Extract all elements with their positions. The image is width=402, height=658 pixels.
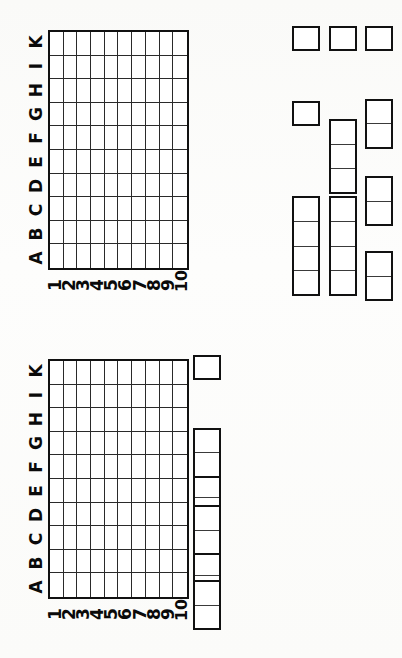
grid-cell[interactable] (146, 126, 160, 150)
grid-cell[interactable] (50, 408, 64, 432)
grid-cell[interactable] (146, 103, 160, 127)
grid-cell[interactable] (50, 56, 64, 80)
grid-cell[interactable] (146, 432, 160, 456)
grid-cell[interactable] (160, 526, 174, 550)
ship-segment[interactable] (294, 103, 318, 124)
grid-cell[interactable] (146, 197, 160, 221)
grid-cell[interactable] (105, 573, 119, 597)
grid-cell[interactable] (132, 408, 146, 432)
grid-cell[interactable] (173, 455, 187, 479)
grid-cell[interactable] (50, 174, 64, 198)
grid-cell[interactable] (64, 432, 78, 456)
grid-cell[interactable] (160, 455, 174, 479)
grid-cell[interactable] (173, 361, 187, 385)
grid-cell[interactable] (77, 244, 91, 268)
grid-cell[interactable] (146, 526, 160, 550)
grid-cell[interactable] (146, 385, 160, 409)
grid-cell[interactable] (105, 455, 119, 479)
battleship-board-top[interactable]: A B C D E F G H I K 1 2 3 4 5 6 7 8 9 10 (0, 0, 402, 329)
ship-token-len-1[interactable] (292, 101, 320, 126)
grid-cell[interactable] (105, 174, 119, 198)
grid-cell[interactable] (132, 103, 146, 127)
grid-cell[interactable] (160, 79, 174, 103)
grid-cell[interactable] (105, 221, 119, 245)
grid-cell[interactable] (64, 550, 78, 574)
grid-cell[interactable] (160, 150, 174, 174)
grid-cell[interactable] (77, 32, 91, 56)
ship-token-len-2[interactable] (365, 251, 393, 301)
grid-cell[interactable] (160, 385, 174, 409)
grid-cell[interactable] (173, 244, 187, 268)
grid-cell[interactable] (50, 103, 64, 127)
grid-cell[interactable] (173, 526, 187, 550)
grid-cell[interactable] (64, 174, 78, 198)
grid-cell[interactable] (105, 150, 119, 174)
grid-cell[interactable] (132, 479, 146, 503)
grid-cell[interactable] (91, 126, 105, 150)
grid-cell[interactable] (118, 385, 132, 409)
grid-cell[interactable] (173, 79, 187, 103)
grid-cell[interactable] (77, 150, 91, 174)
grid-cell[interactable] (105, 503, 119, 527)
ship-token-len-4[interactable] (329, 196, 357, 296)
ship-segment[interactable] (294, 28, 318, 49)
fleet-area-top[interactable] (192, 26, 400, 296)
grid-cell[interactable] (64, 455, 78, 479)
grid-cell[interactable] (173, 479, 187, 503)
ship-segment[interactable] (367, 253, 391, 277)
ship-segment[interactable] (294, 198, 318, 222)
grid-cell[interactable] (173, 174, 187, 198)
grid-cell[interactable] (160, 573, 174, 597)
ship-segment[interactable] (195, 453, 219, 476)
grid-cell[interactable] (50, 455, 64, 479)
grid-cell[interactable] (118, 455, 132, 479)
ship-segment[interactable] (195, 582, 219, 606)
grid-bottom[interactable] (48, 359, 189, 599)
grid-cell[interactable] (132, 126, 146, 150)
grid-cell[interactable] (77, 455, 91, 479)
grid-cell[interactable] (64, 79, 78, 103)
grid-cell[interactable] (118, 573, 132, 597)
grid-cell[interactable] (160, 174, 174, 198)
grid-cell[interactable] (118, 244, 132, 268)
ship-segment[interactable] (195, 606, 219, 629)
ship-segment[interactable] (331, 198, 355, 222)
grid-cell[interactable] (105, 244, 119, 268)
grid-cell[interactable] (91, 432, 105, 456)
grid-cell[interactable] (173, 32, 187, 56)
grid-cell[interactable] (160, 56, 174, 80)
ship-segment[interactable] (367, 101, 391, 125)
grid-cell[interactable] (77, 56, 91, 80)
grid-cell[interactable] (50, 361, 64, 385)
grid-cell[interactable] (173, 150, 187, 174)
grid-cell[interactable] (146, 79, 160, 103)
grid-cell[interactable] (50, 197, 64, 221)
grid-cell[interactable] (64, 503, 78, 527)
grid-cell[interactable] (160, 408, 174, 432)
grid-cell[interactable] (146, 503, 160, 527)
fleet-column-1[interactable] (291, 26, 325, 296)
grid-cell[interactable] (105, 550, 119, 574)
grid-cell[interactable] (118, 479, 132, 503)
grid-cell[interactable] (146, 32, 160, 56)
grid-cell[interactable] (91, 244, 105, 268)
ship-segment[interactable] (294, 222, 318, 246)
grid-cell[interactable] (64, 221, 78, 245)
grid-cell[interactable] (160, 197, 174, 221)
ship-token-len-1[interactable] (365, 26, 393, 51)
grid-cell[interactable] (77, 432, 91, 456)
grid-cell[interactable] (132, 526, 146, 550)
grid-cell[interactable] (173, 432, 187, 456)
grid-cell[interactable] (77, 361, 91, 385)
grid-cell[interactable] (50, 503, 64, 527)
ship-token-len-2[interactable] (365, 99, 393, 149)
ship-segment[interactable] (367, 28, 391, 49)
grid-cell[interactable] (105, 197, 119, 221)
grid-cell[interactable] (91, 361, 105, 385)
grid-cell[interactable] (77, 103, 91, 127)
ship-segment[interactable] (331, 145, 355, 169)
grid-cell[interactable] (173, 221, 187, 245)
grid-cell[interactable] (91, 56, 105, 80)
grid-cell[interactable] (50, 126, 64, 150)
grid-cell[interactable] (160, 126, 174, 150)
